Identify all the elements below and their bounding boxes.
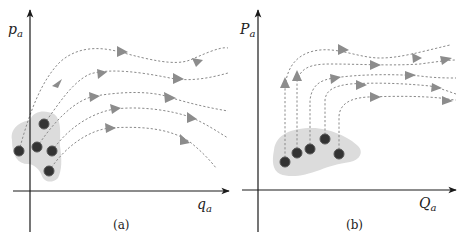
panel-caption-a: (a) [113,219,130,231]
arrowhead-icon [370,60,381,70]
arrowhead-icon [412,53,422,63]
x-axis-label-b: Qa [419,196,436,213]
x-axis-label-b-main: Q [419,195,430,211]
phase-point [47,146,57,156]
flow-arrowheads-b [280,44,453,105]
x-axis-label-a-main: q [197,196,206,212]
phase-point [39,119,49,129]
flow-line [44,71,228,124]
arrowhead-icon [431,83,442,92]
arrowhead-icon [89,92,100,102]
arrowhead-icon [164,92,176,103]
arrowhead-icon [405,71,416,80]
y-axis-label-b-main: P [240,21,249,37]
flow-line [37,93,228,148]
phase-point [32,142,42,152]
arrowhead-icon [173,73,184,84]
arrowhead-icon [105,123,116,133]
arrowhead-icon [97,69,107,79]
arrowhead-icon [330,74,341,84]
arrowhead-icon [192,58,203,67]
y-axis-label-b: Pa [240,22,255,39]
arrowhead-icon [292,70,302,81]
x-axis-label-a-sub: a [206,203,212,214]
phase-point [280,157,290,167]
phase-space-figure: pa qa (a) Pa Qa (b) [0,0,469,243]
phase-region-b [273,128,361,176]
phase-point [44,166,54,176]
arrowhead-icon [356,80,367,90]
phase-point [305,144,315,154]
y-axis-label-b-sub: a [249,28,255,39]
flow-arrowheads-a [52,46,203,145]
y-axis-label-a-main: p [8,21,17,37]
flow-line [49,127,216,171]
arrowhead-icon [280,77,290,88]
arrowhead-icon [442,96,453,105]
arrowhead-icon [52,79,62,88]
flow-line [325,83,456,139]
arrowhead-icon [370,92,381,102]
phase-point [292,148,302,158]
arrowhead-icon [338,44,349,55]
flow-line [52,108,228,151]
x-axis-label-b-sub: a [430,202,436,213]
panel-caption-b: (b) [346,219,363,231]
arrowhead-icon [187,112,197,123]
arrowhead-icon [110,104,121,114]
arrowhead-icon [117,46,128,57]
phase-point [334,149,344,159]
phase-point [320,134,330,144]
phase-point [14,146,24,156]
y-axis-label-a-sub: a [17,28,23,39]
x-axis-label-a: qa [197,197,212,214]
y-axis-label-a: pa [8,22,23,39]
arrowhead-icon [180,134,190,145]
figure-svg [0,0,469,243]
